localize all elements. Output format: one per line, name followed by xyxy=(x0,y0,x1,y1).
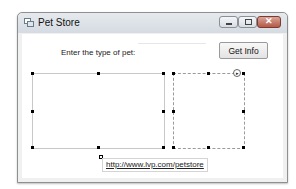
resize-handle[interactable] xyxy=(162,72,165,75)
resize-handle[interactable] xyxy=(31,72,34,75)
resize-handle[interactable] xyxy=(172,72,175,75)
form-client-area: Enter the type of pet: Get Info ▸ http:/… xyxy=(22,34,283,178)
designer-window: Pet Store ✕ Enter the type of pet: Get I… xyxy=(17,12,288,183)
resize-handle[interactable] xyxy=(31,110,34,113)
maximize-button[interactable] xyxy=(238,16,257,28)
close-icon: ✕ xyxy=(258,16,280,26)
resize-handle[interactable] xyxy=(207,72,210,75)
resize-handle[interactable] xyxy=(162,146,165,149)
pet-type-input[interactable] xyxy=(138,43,206,52)
resize-handle[interactable] xyxy=(172,146,175,149)
form-icon xyxy=(24,18,34,27)
resize-handle[interactable] xyxy=(31,146,34,149)
resize-handle[interactable] xyxy=(242,72,245,75)
right-panel[interactable]: ▸ xyxy=(173,73,245,149)
maximize-icon xyxy=(245,19,252,25)
resize-handle[interactable] xyxy=(207,146,210,149)
window-title: Pet Store xyxy=(38,17,80,28)
title-bar[interactable]: Pet Store ✕ xyxy=(18,13,287,33)
resize-handle[interactable] xyxy=(242,110,245,113)
resize-handle[interactable] xyxy=(97,146,100,149)
resize-handle[interactable] xyxy=(242,146,245,149)
left-panel[interactable] xyxy=(32,73,165,149)
smart-tag-icon[interactable]: ▸ xyxy=(233,69,241,77)
resize-handle[interactable] xyxy=(162,110,165,113)
minimize-button[interactable] xyxy=(219,16,238,28)
get-info-button[interactable]: Get Info xyxy=(219,42,268,59)
resize-handle[interactable] xyxy=(97,72,100,75)
petstore-link[interactable]: http://www.lvp.com/petstore xyxy=(102,158,208,172)
pet-type-label: Enter the type of pet: xyxy=(61,48,135,57)
close-button[interactable]: ✕ xyxy=(257,16,281,28)
minimize-icon xyxy=(226,23,232,25)
resize-handle[interactable] xyxy=(172,110,175,113)
